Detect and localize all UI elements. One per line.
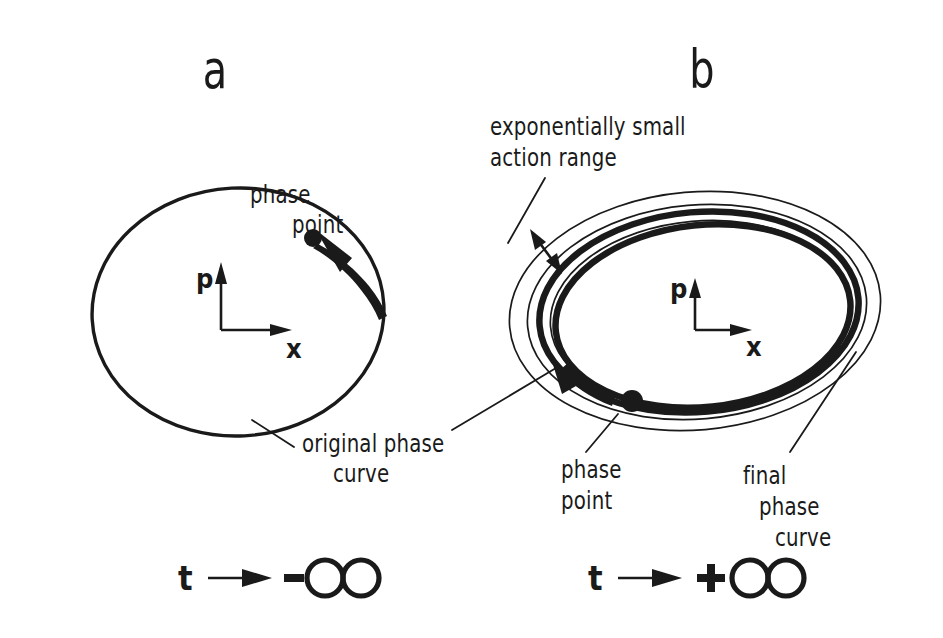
- panel-b-phase-point-line-2: point: [561, 486, 612, 516]
- panel-b-final-curve-line-2: phase: [759, 492, 820, 522]
- panel-b-x-axis-label: x: [746, 331, 762, 362]
- panel-a-limit-variable: t: [178, 558, 193, 598]
- panel-b: b p x: [452, 38, 891, 598]
- panel-b-final-curve-line-3: curve: [775, 523, 831, 553]
- panel-a-limit-label: t: [178, 558, 379, 598]
- panel-a-x-axis-label: x: [286, 333, 302, 364]
- panel-b-final-phase-curve-spiral: [531, 198, 867, 425]
- panel-a-p-axis-label: p: [196, 263, 213, 294]
- panel-a-axes: p x: [196, 262, 302, 364]
- panel-b-action-range-leader: [508, 178, 545, 243]
- panel-a-infinity-right-ring: [343, 560, 379, 596]
- panel-a-original-phase-curve: [86, 181, 391, 444]
- panel-b-original-curve-leader: [452, 368, 556, 430]
- panel-b-action-range-line-1: exponentially small: [490, 112, 686, 142]
- panel-b-p-axis-arrowhead: [689, 278, 701, 298]
- panel-a: a p x phase point: [86, 38, 445, 598]
- panel-b-spiral-loop-outer: [531, 198, 867, 425]
- panel-b-limit-variable: t: [588, 558, 603, 598]
- panel-a-infinity-left-ring: [307, 560, 343, 596]
- panel-b-infinity-right-ring: [768, 560, 804, 596]
- panel-b-phase-point-line-1: phase: [561, 455, 622, 485]
- panel-a-phase-point-line-1: phase: [250, 180, 311, 210]
- panel-b-p-axis-label: p: [670, 273, 687, 304]
- panel-a-p-axis-arrowhead: [215, 262, 227, 284]
- figure-canvas: a p x phase point: [0, 0, 943, 638]
- panel-b-action-range-line-2: action range: [490, 143, 617, 173]
- panel-b-letter: b: [689, 38, 714, 101]
- panel-b-limit-label: t: [588, 558, 804, 598]
- panel-b-phase-point-annotation: phase point: [561, 414, 622, 515]
- panel-b-infinity-left-ring: [732, 560, 768, 596]
- panel-a-trajectory-arrow: [313, 244, 387, 320]
- panel-a-phase-point-line-2: point: [292, 210, 343, 240]
- phase-space-figure: a p x phase point: [0, 0, 943, 638]
- panel-b-limit-plus-sign: [697, 564, 725, 592]
- panel-b-limit-arrowhead: [652, 569, 682, 587]
- panel-b-axes: p x: [670, 273, 762, 362]
- panel-a-original-curve-line-1: original phase: [302, 429, 444, 459]
- panel-a-limit-arrowhead: [242, 569, 272, 587]
- panel-b-final-curve-line-1: final: [743, 461, 786, 491]
- panel-a-limit-minus-sign: [284, 574, 304, 582]
- panel-a-phase-point-annotation: phase point: [250, 180, 343, 240]
- panel-b-phase-point-dot: [621, 390, 643, 412]
- panel-a-letter: a: [203, 38, 227, 101]
- panel-a-original-curve-line-2: curve: [333, 459, 389, 489]
